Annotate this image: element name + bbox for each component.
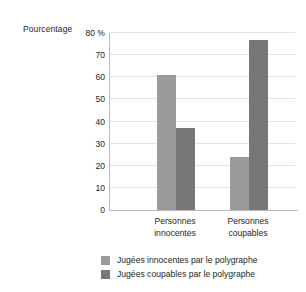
plot-area bbox=[109, 33, 295, 210]
legend-label-innocent: Jugées innocentes par le polygraphe bbox=[117, 255, 257, 265]
y-axis-tick-label: 60 bbox=[95, 72, 105, 82]
y-axis-tick-label: 20 bbox=[95, 161, 105, 171]
category-label-line: coupables bbox=[203, 228, 293, 240]
legend-item: Jugées innocentes par le polygraphe bbox=[101, 253, 257, 267]
y-axis-tick-label: 10 bbox=[95, 183, 105, 193]
legend-label-guilty: Jugées coupables par le polygraphe bbox=[117, 269, 255, 279]
bar bbox=[176, 128, 195, 210]
legend-item: Jugées coupables par le polygraphe bbox=[101, 267, 257, 281]
y-axis-tick-labels: 01020304050607080 % bbox=[55, 33, 105, 210]
bar bbox=[249, 40, 268, 210]
legend-swatch-innocent bbox=[101, 256, 110, 265]
bar bbox=[157, 75, 176, 210]
legend-swatch-guilty bbox=[101, 270, 110, 279]
category-label: Personnescoupables bbox=[203, 216, 293, 239]
x-axis-baseline bbox=[109, 210, 298, 212]
gridline bbox=[110, 32, 295, 33]
y-axis-tick-label: 30 bbox=[95, 139, 105, 149]
y-axis-tick-label: 0 bbox=[100, 205, 105, 215]
category-label-line: Personnes bbox=[203, 216, 293, 228]
y-axis-tick-label: 40 bbox=[95, 117, 105, 127]
y-axis-tick-label: 70 bbox=[95, 50, 105, 60]
y-axis-tick-label: 80 % bbox=[85, 28, 105, 38]
chart-legend: Jugées innocentes par le polygraphe Jugé… bbox=[101, 253, 257, 281]
bar bbox=[230, 157, 249, 210]
polygraph-accuracy-bar-chart: Pourcentage 01020304050607080 % Jugées i… bbox=[0, 0, 306, 292]
y-axis-tick-label: 50 bbox=[95, 94, 105, 104]
